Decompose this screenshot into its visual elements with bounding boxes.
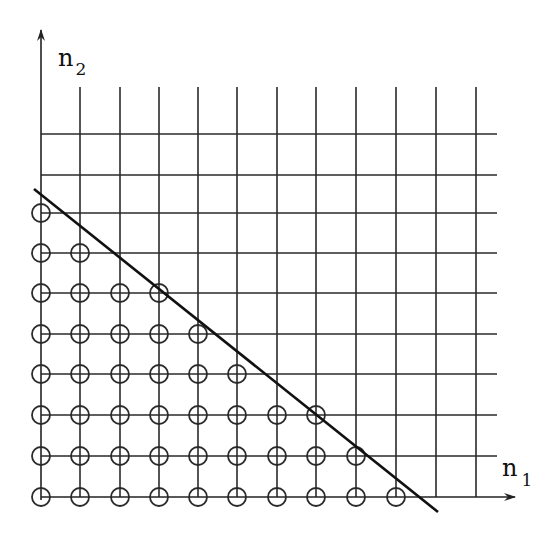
lattice-diagram: n2 n1 <box>0 0 552 538</box>
lattice-points <box>32 204 405 506</box>
y-axis-label: n2 <box>58 44 86 79</box>
grid-lines <box>41 87 497 497</box>
x-axis-label: n1 <box>502 454 532 490</box>
boundary-line <box>34 189 438 512</box>
